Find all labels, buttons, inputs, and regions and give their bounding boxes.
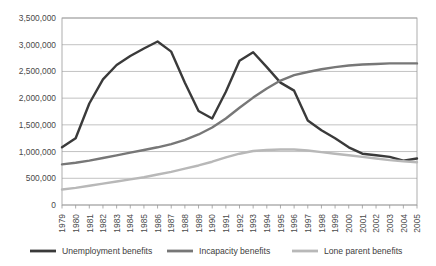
x-axis-tick-label: 2001 bbox=[358, 214, 368, 233]
series-line bbox=[62, 42, 417, 161]
x-axis-tick-label: 1996 bbox=[289, 214, 299, 233]
x-axis-tick-label: 1995 bbox=[276, 214, 286, 233]
x-axis-tick-label: 2003 bbox=[385, 214, 395, 233]
x-axis-tick-label: 1994 bbox=[262, 214, 272, 233]
y-axis-tick-label: 500,000 bbox=[26, 173, 57, 183]
x-axis-tick-label: 1999 bbox=[330, 214, 340, 233]
x-axis-tick-label: 2005 bbox=[412, 214, 422, 233]
x-axis-labels: 1979198019811982198319841985198619871988… bbox=[57, 214, 422, 233]
legend-label: Lone parent benefits bbox=[324, 246, 402, 256]
x-axis-tick-label: 1986 bbox=[153, 214, 163, 233]
plot-frame bbox=[62, 18, 417, 205]
x-axis-tick-label: 1989 bbox=[194, 214, 204, 233]
x-axis-tick-label: 1982 bbox=[98, 214, 108, 233]
x-axis-tick-label: 1991 bbox=[221, 214, 231, 233]
x-axis-tick-label: 1997 bbox=[303, 214, 313, 233]
x-axis-tick-label: 1981 bbox=[85, 214, 95, 233]
y-axis-tick-label: 3,000,000 bbox=[19, 40, 57, 50]
x-axis-tick-label: 2002 bbox=[371, 214, 381, 233]
gridlines-group bbox=[62, 18, 417, 205]
x-axis-tick-label: 1987 bbox=[166, 214, 176, 233]
x-axis-tick-label: 1992 bbox=[235, 214, 245, 233]
x-axis-tick-label: 2004 bbox=[399, 214, 409, 233]
x-axis-tick-label: 1990 bbox=[207, 214, 217, 233]
chart-canvas: 0500,0001,000,0001,500,0002,000,0002,500… bbox=[0, 0, 436, 266]
y-axis-tick-label: 2,500,000 bbox=[19, 66, 57, 76]
x-axis-tick-label: 1998 bbox=[317, 214, 327, 233]
series-line bbox=[62, 63, 417, 164]
x-axis-tick-label: 2000 bbox=[344, 214, 354, 233]
y-axis-tick-label: 1,500,000 bbox=[19, 120, 57, 130]
x-axis-tick-label: 1980 bbox=[71, 214, 81, 233]
x-axis-tick-label: 1985 bbox=[139, 214, 149, 233]
legend-label: Incapacity benefits bbox=[199, 246, 270, 256]
y-axis-tick-label: 2,000,000 bbox=[19, 93, 57, 103]
chart-legend: Unemployment benefitsIncapacity benefits… bbox=[30, 246, 402, 256]
x-axis-tick-label: 1988 bbox=[180, 214, 190, 233]
x-axis-tick-label: 1983 bbox=[112, 214, 122, 233]
x-axis-tick-label: 1984 bbox=[125, 214, 135, 233]
line-chart: 0500,0001,000,0001,500,0002,000,0002,500… bbox=[0, 0, 436, 266]
y-axis-labels: 0500,0001,000,0001,500,0002,000,0002,500… bbox=[19, 13, 57, 210]
plot-area-border bbox=[62, 18, 417, 205]
legend-label: Unemployment benefits bbox=[62, 246, 152, 256]
x-axis-tick-label: 1993 bbox=[248, 214, 258, 233]
x-axis-tickmarks bbox=[62, 205, 417, 209]
y-axis-tick-label: 3,500,000 bbox=[19, 13, 57, 23]
x-axis-tick-label: 1979 bbox=[57, 214, 67, 233]
y-axis-tick-label: 1,000,000 bbox=[19, 147, 57, 157]
y-axis-tick-label: 0 bbox=[51, 200, 56, 210]
data-series-group bbox=[62, 42, 417, 190]
